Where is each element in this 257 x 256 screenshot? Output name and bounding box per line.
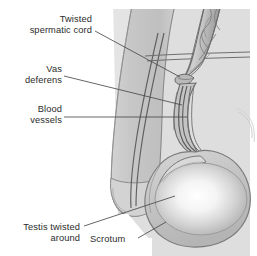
anatomical-figure: Twisted spermatic cord Vas deferens Bloo… [0,0,257,256]
illustration-canvas [0,0,257,256]
label-blood-vessels: Blood vessels [6,104,62,126]
label-testis-twisted-around: Testis twisted around [4,222,80,244]
cropped-top-text [0,0,257,9]
label-scrotum: Scrotum [90,234,140,245]
label-vas-deferens: Vas deferens [6,64,62,86]
label-twisted-spermatic-cord: Twisted spermatic cord [6,14,92,36]
